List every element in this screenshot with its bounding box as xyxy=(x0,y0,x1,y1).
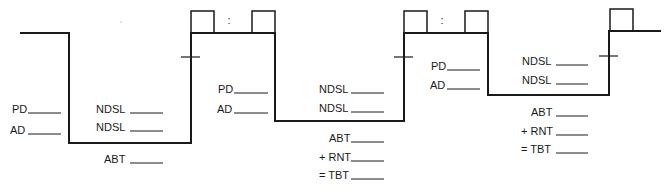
dive-fields: PDADNDSLNDSLABTPDADNDSLNDSLABT+ RNT= TBT… xyxy=(10,55,588,181)
actual-depth-field[interactable]: AD xyxy=(10,124,61,136)
total-bottom-time-field[interactable]: = TBT xyxy=(319,169,384,181)
planned-depth-field[interactable]: PD xyxy=(431,60,480,72)
no-deco-limit-2-label: NDSL xyxy=(522,74,551,86)
no-deco-limit-2-field[interactable]: NDSL xyxy=(96,121,163,133)
residual-nitrogen-time-label: + RNT xyxy=(319,151,351,163)
stray-dot xyxy=(120,21,121,22)
total-bottom-time-field[interactable]: = TBT xyxy=(521,143,588,155)
residual-nitrogen-time-label: + RNT xyxy=(521,125,553,137)
safety-stop-ticks xyxy=(181,56,618,57)
surface-interval-box-2-start[interactable] xyxy=(404,11,427,33)
actual-bottom-time-field[interactable]: ABT xyxy=(104,153,163,165)
no-deco-limit-2-label: NDSL xyxy=(96,121,125,133)
time-colons: :: xyxy=(227,14,443,26)
no-deco-limit-1-field[interactable]: NDSL xyxy=(522,55,588,67)
planned-depth-label: PD xyxy=(431,60,446,72)
total-bottom-time-label: = TBT xyxy=(521,143,551,155)
no-deco-limit-2-field[interactable]: NDSL xyxy=(319,102,384,114)
no-deco-limit-1-label: NDSL xyxy=(319,83,348,95)
actual-depth-field[interactable]: AD xyxy=(217,103,268,115)
planned-depth-field[interactable]: PD xyxy=(12,103,61,115)
total-bottom-time-label: = TBT xyxy=(319,169,349,181)
time-colon-1: : xyxy=(227,14,230,26)
surface-interval-box-2-end[interactable] xyxy=(465,11,488,33)
planned-depth-label: PD xyxy=(218,83,233,95)
dive-profile-diagram: :: PDADNDSLNDSLABTPDADNDSLNDSLABT+ RNT= … xyxy=(0,0,669,191)
no-deco-limit-2-field[interactable]: NDSL xyxy=(522,74,588,86)
dive-2: PDADNDSLNDSLABT+ RNT= TBT xyxy=(217,83,384,181)
dive-3: PDADNDSLNDSLABT+ RNT= TBT xyxy=(430,55,588,155)
final-time-box[interactable] xyxy=(610,9,633,31)
no-deco-limit-1-label: NDSL xyxy=(96,103,125,115)
no-deco-limit-2-label: NDSL xyxy=(319,102,348,114)
actual-bottom-time-field[interactable]: ABT xyxy=(329,132,384,144)
residual-nitrogen-time-field[interactable]: + RNT xyxy=(521,125,588,137)
surface-interval-box-1-end[interactable] xyxy=(252,11,275,33)
actual-bottom-time-label: ABT xyxy=(531,106,553,118)
actual-depth-field[interactable]: AD xyxy=(430,79,480,91)
planned-depth-field[interactable]: PD xyxy=(218,83,268,95)
actual-depth-label: AD xyxy=(430,79,445,91)
surface-interval-box-1-start[interactable] xyxy=(191,11,214,33)
actual-bottom-time-label: ABT xyxy=(104,153,126,165)
no-deco-limit-1-field[interactable]: NDSL xyxy=(96,103,163,115)
time-boxes xyxy=(191,9,633,33)
actual-bottom-time-label: ABT xyxy=(329,132,351,144)
actual-depth-label: AD xyxy=(10,124,25,136)
actual-depth-label: AD xyxy=(217,103,232,115)
dive-1: PDADNDSLNDSLABT xyxy=(10,103,163,165)
no-deco-limit-1-label: NDSL xyxy=(522,55,551,67)
actual-bottom-time-field[interactable]: ABT xyxy=(531,106,588,118)
planned-depth-label: PD xyxy=(12,103,27,115)
no-deco-limit-1-field[interactable]: NDSL xyxy=(319,83,384,95)
time-colon-2: : xyxy=(440,14,443,26)
residual-nitrogen-time-field[interactable]: + RNT xyxy=(319,151,384,163)
